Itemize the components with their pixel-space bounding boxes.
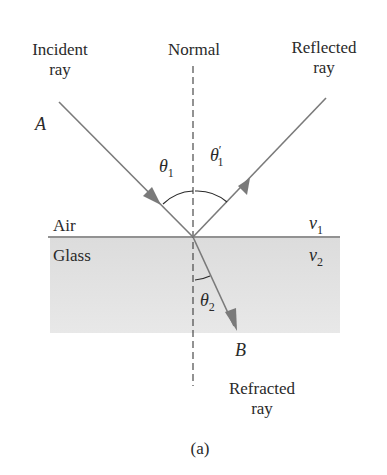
reflected-arrowhead-icon — [238, 178, 250, 195]
v2-symbol: v — [309, 245, 317, 265]
theta1-prime-subscript: 1 — [217, 155, 223, 169]
incident-ray-label: Incident ray — [22, 40, 98, 80]
theta2-label: θ2 — [200, 290, 215, 315]
air-label: Air — [53, 216, 76, 236]
point-b-label: B — [235, 340, 246, 361]
theta1-symbol: θ — [159, 156, 168, 176]
theta2-subscript: 2 — [209, 300, 215, 314]
point-a-label: A — [35, 114, 46, 135]
refracted-ray-label-line1: Refracted — [216, 379, 308, 399]
reflected-ray-label: Reflected ray — [278, 38, 370, 78]
v1-label: v1 — [309, 213, 323, 238]
refracted-ray-label: Refracted ray — [216, 379, 308, 419]
incident-ray-label-line1: Incident — [22, 40, 98, 60]
refracted-ray-label-line2: ray — [216, 399, 308, 419]
reflected-ray-label-line2: ray — [278, 58, 370, 78]
theta1-prime-label: θ′1 — [210, 143, 223, 170]
figure-caption: (a) — [180, 439, 220, 459]
theta1-arc — [163, 191, 193, 204]
glass-label: Glass — [53, 246, 91, 266]
normal-label: Normal — [154, 40, 234, 60]
glass-region — [50, 238, 340, 333]
theta1-subscript: 1 — [168, 166, 174, 180]
reflected-ray-label-line1: Reflected — [278, 38, 370, 58]
incident-ray-label-line2: ray — [22, 60, 98, 80]
v1-symbol: v — [309, 213, 317, 233]
v2-label: v2 — [309, 245, 323, 270]
theta2-symbol: θ — [200, 290, 209, 310]
theta1-label: θ1 — [159, 156, 174, 181]
v1-subscript: 1 — [317, 223, 323, 237]
v2-subscript: 2 — [317, 255, 323, 269]
theta1-prime-arc — [195, 191, 227, 202]
